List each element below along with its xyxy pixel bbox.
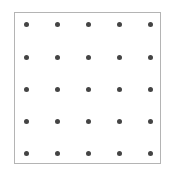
grid-dot <box>117 151 122 156</box>
grid-dot <box>86 22 91 27</box>
grid-dot <box>148 151 153 156</box>
grid-dot <box>148 87 153 92</box>
grid-dot <box>86 119 91 124</box>
grid-dot <box>55 119 60 124</box>
grid-dot <box>55 55 60 60</box>
grid-dot <box>55 22 60 27</box>
grid-dot <box>24 55 29 60</box>
grid-dot <box>117 87 122 92</box>
grid-dot <box>55 151 60 156</box>
grid-dot <box>148 119 153 124</box>
grid-dot <box>24 22 29 27</box>
grid-dot <box>24 119 29 124</box>
grid-dot <box>24 151 29 156</box>
grid-dot <box>24 87 29 92</box>
grid-dot <box>86 151 91 156</box>
grid-dot <box>148 22 153 27</box>
grid-dot <box>55 87 60 92</box>
grid-dot <box>148 55 153 60</box>
grid-dot <box>117 55 122 60</box>
grid-dot <box>86 87 91 92</box>
grid-dot <box>86 55 91 60</box>
grid-dot <box>117 22 122 27</box>
grid-dot <box>117 119 122 124</box>
